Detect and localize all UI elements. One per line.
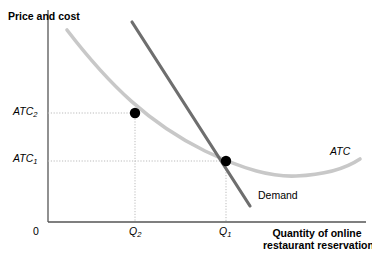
atc-curve (67, 30, 360, 176)
y-tick-atc2-subscript: 2 (33, 110, 37, 119)
y-tick-atc1-subscript: 1 (33, 157, 37, 166)
x-tick-label-q1: Q1 (219, 226, 231, 238)
x-axis-title-line1: Quantity of online (263, 228, 371, 240)
point-atc2-q2 (130, 108, 140, 118)
x-tick-q2-text: Q (129, 225, 137, 237)
y-tick-label-atc2: ATC2 (13, 106, 37, 118)
demand-curve (132, 22, 250, 206)
x-tick-q2-subscript: 2 (137, 230, 141, 239)
x-tick-label-q2: Q2 (129, 226, 141, 238)
demand-curve-label: Demand (258, 190, 298, 202)
y-tick-atc1-text: ATC (13, 152, 33, 164)
x-tick-q1-subscript: 1 (227, 230, 231, 239)
y-tick-label-atc1: ATC1 (13, 153, 37, 165)
x-tick-q1-text: Q (219, 225, 227, 237)
x-axis-title: Quantity of online restaurant reservatio… (263, 228, 371, 252)
atc-curve-label: ATC (330, 146, 350, 158)
y-axis-title: Price and cost (8, 11, 57, 23)
origin-label: 0 (33, 226, 39, 238)
economics-cost-curve-figure: Price and cost Quantity of online restau… (0, 0, 372, 261)
plot-area (0, 0, 372, 261)
x-axis-title-line2: restaurant reservations (263, 240, 371, 252)
point-atc1-q1 (221, 156, 231, 166)
y-tick-atc2-text: ATC (13, 105, 33, 117)
